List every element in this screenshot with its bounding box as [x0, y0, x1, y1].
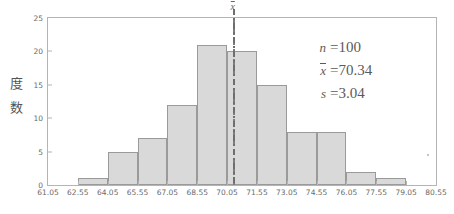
y-axis-title-char-1: 度 — [6, 72, 26, 96]
y-axis-tick-mark — [48, 84, 52, 85]
x-axis-tick-mark — [227, 181, 228, 185]
x-axis-tick-label: 70.05 — [216, 188, 237, 197]
x-axis-tick-mark — [257, 181, 258, 185]
y-axis-tick-mark — [48, 118, 52, 119]
x-axis-tick-mark — [108, 181, 109, 185]
x-axis-tick-label: 67.05 — [157, 188, 178, 197]
histogram-bar — [257, 85, 287, 185]
stat-value-mean: =70.34 — [326, 62, 372, 78]
y-axis-title: 度 数 — [6, 72, 26, 120]
stat-num-n: 100 — [338, 39, 361, 55]
x-axis-tick-label: 77.55 — [366, 188, 387, 197]
y-axis-tick-label: 20 — [33, 47, 48, 56]
histogram-bar — [167, 105, 197, 185]
y-axis-tick-label: 10 — [33, 114, 48, 123]
x-axis-tick-mark — [317, 181, 318, 185]
mean-line-label: x — [231, 1, 235, 13]
x-axis-tick-label: 76.05 — [336, 188, 357, 197]
stat-value-n: =100 — [326, 39, 361, 55]
x-axis-tick-mark — [197, 181, 198, 185]
x-axis-tick-mark — [167, 181, 168, 185]
histogram-bar — [287, 132, 317, 185]
y-axis-tick-label: 5 — [38, 147, 48, 156]
histogram-bar — [78, 178, 108, 185]
mean-line — [233, 9, 235, 185]
y-axis-title-char-2: 数 — [6, 96, 26, 120]
y-axis-tick-label: 15 — [33, 80, 48, 89]
y-axis-tick-label: 25 — [33, 14, 48, 23]
stat-num-mean: 70.34 — [338, 62, 372, 78]
x-axis-tick-mark — [138, 181, 139, 185]
x-axis-tick-mark — [406, 181, 407, 185]
x-axis-tick-label: 68.55 — [186, 188, 207, 197]
plot-area: 051015202561.0562.5564.0565.5567.0568.55… — [47, 17, 437, 186]
x-axis-tick-label: 64.05 — [97, 188, 118, 197]
x-axis-tick-label: 80.55 — [425, 188, 446, 197]
x-axis-tick-mark — [287, 181, 288, 185]
histogram-bar — [376, 178, 406, 185]
x-axis-tick-label: 65.55 — [127, 188, 148, 197]
histogram-bar — [138, 138, 168, 185]
histogram-bar — [227, 51, 257, 185]
stat-symbol-sd: s — [300, 83, 326, 105]
histogram-bar — [197, 45, 227, 185]
histogram-figure: 度 数 051015202561.0562.5564.0565.5567.056… — [0, 0, 454, 214]
x-axis-tick-mark — [78, 181, 79, 185]
y-axis-tick-mark — [48, 51, 52, 52]
x-axis-tick-label: 74.55 — [306, 188, 327, 197]
histogram-bar — [317, 132, 347, 185]
stat-symbol-n: n — [300, 37, 326, 59]
histogram-bar — [346, 172, 376, 185]
y-axis-tick-mark — [48, 151, 52, 152]
stat-num-sd: 3.04 — [338, 85, 364, 101]
stat-row-mean: x=70.34 — [300, 59, 372, 82]
x-axis-tick-mark — [346, 181, 347, 185]
stat-row-n: n=100 — [300, 36, 372, 59]
histogram-bar — [108, 152, 138, 185]
x-axis-tick-label: 73.05 — [276, 188, 297, 197]
x-axis-tick-label: 62.55 — [67, 188, 88, 197]
stat-symbol-mean: x — [300, 60, 326, 82]
x-axis-tick-label: 79.05 — [395, 188, 416, 197]
x-axis-tick-label: 61.05 — [37, 188, 58, 197]
stat-value-sd: =3.04 — [326, 85, 365, 101]
stat-row-sd: s=3.04 — [300, 82, 372, 105]
statistics-annotation: n=100 x=70.34 s=3.04 — [300, 36, 372, 105]
x-axis-tick-label: 71.55 — [246, 188, 267, 197]
mean-line-label-text: x — [231, 1, 235, 13]
bars-container — [48, 18, 436, 185]
stray-speck — [427, 154, 429, 156]
x-axis-tick-mark — [376, 181, 377, 185]
